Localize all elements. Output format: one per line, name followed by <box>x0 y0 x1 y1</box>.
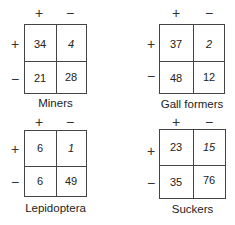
cell-minus-minus: 12 <box>194 71 224 83</box>
cell-plus-minus: 15 <box>194 141 224 153</box>
cell-minus-plus: 35 <box>161 176 191 188</box>
row-header-minus: − <box>8 175 22 189</box>
cell-minus-minus: 28 <box>56 71 86 83</box>
table-label: Suckers <box>159 203 226 215</box>
cell-plus-minus: 2 <box>194 38 224 50</box>
col-header-plus: + <box>169 115 183 129</box>
cell-plus-minus: 1 <box>56 142 86 154</box>
divider <box>160 165 225 166</box>
contingency-table-lepidoptera: + − + − 6 1 6 49 Lepidoptera <box>0 112 118 225</box>
row-header-minus: − <box>8 72 22 86</box>
col-header-minus: − <box>63 115 77 129</box>
contingency-table-gall-formers: + − + − 37 2 48 12 Gall formers <box>118 0 235 112</box>
table-label: Miners <box>24 97 87 109</box>
col-header-minus: − <box>63 6 77 20</box>
contingency-table-miners: + − + − 34 4 21 28 Miners <box>0 0 118 112</box>
divider <box>160 61 224 62</box>
col-header-plus: + <box>32 115 46 129</box>
row-header-plus: + <box>144 37 158 51</box>
cell-plus-plus: 34 <box>25 38 55 50</box>
cell-minus-plus: 21 <box>25 72 55 84</box>
row-header-plus: + <box>8 37 22 51</box>
cell-plus-plus: 6 <box>25 142 55 154</box>
table-label: Gall formers <box>149 98 235 110</box>
cell-minus-minus: 49 <box>56 175 86 187</box>
col-header-minus: − <box>202 6 216 20</box>
row-header-minus: − <box>144 69 158 83</box>
row-header-plus: + <box>8 142 22 156</box>
cell-plus-minus: 4 <box>56 38 86 50</box>
cell-minus-plus: 48 <box>161 72 191 84</box>
cell-minus-plus: 6 <box>25 175 55 187</box>
contingency-table-suckers: + − + − 23 15 35 76 Suckers <box>118 112 235 225</box>
table-label: Lepidoptera <box>18 202 93 214</box>
col-header-plus: + <box>169 6 183 20</box>
col-header-minus: − <box>202 115 216 129</box>
divider <box>25 166 86 167</box>
row-header-plus: + <box>144 144 158 158</box>
cell-minus-minus: 76 <box>194 174 224 186</box>
row-header-minus: − <box>144 176 158 190</box>
cell-plus-plus: 37 <box>161 38 191 50</box>
col-header-plus: + <box>32 6 46 20</box>
grid <box>159 129 226 199</box>
cell-plus-plus: 23 <box>161 141 191 153</box>
divider <box>25 61 86 62</box>
